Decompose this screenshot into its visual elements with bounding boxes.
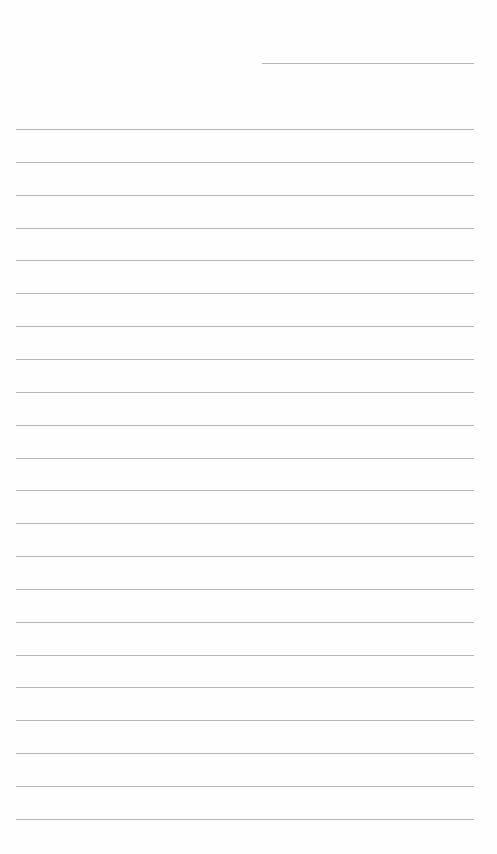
header-blank-line — [262, 63, 474, 64]
ruled-line — [16, 195, 474, 196]
ruled-line — [16, 326, 474, 327]
ruled-line — [16, 293, 474, 294]
ruled-line — [16, 589, 474, 590]
ruled-line — [16, 228, 474, 229]
ruled-line — [16, 819, 474, 820]
ruled-line — [16, 523, 474, 524]
ruled-line — [16, 786, 474, 787]
ruled-line — [16, 162, 474, 163]
ruled-line — [16, 490, 474, 491]
ruled-line — [16, 458, 474, 459]
ruled-line — [16, 655, 474, 656]
ruled-line — [16, 359, 474, 360]
ruled-line — [16, 622, 474, 623]
ruled-line — [16, 556, 474, 557]
ruled-line — [16, 260, 474, 261]
ruled-line — [16, 392, 474, 393]
ruled-line — [16, 425, 474, 426]
ruled-line — [16, 129, 474, 130]
ruled-line — [16, 720, 474, 721]
ruled-line — [16, 753, 474, 754]
ruled-line — [16, 687, 474, 688]
